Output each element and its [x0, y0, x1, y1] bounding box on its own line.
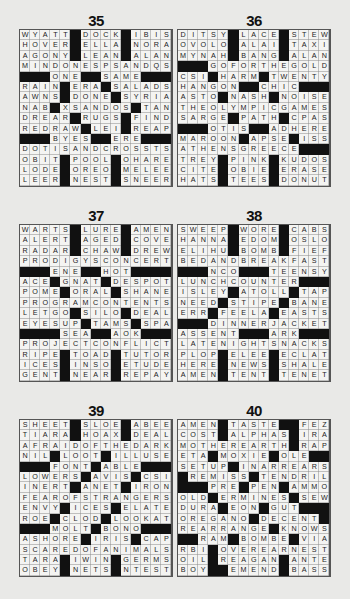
black-square	[269, 308, 279, 318]
letter-cell: L	[121, 451, 131, 461]
letter-cell: E	[161, 420, 171, 430]
letter-cell: A	[299, 256, 309, 266]
letter-cell: S	[319, 103, 329, 113]
letter-cell: P	[20, 256, 30, 266]
letter-cell: O	[299, 61, 309, 71]
letter-cell: I	[239, 462, 249, 472]
black-square	[111, 92, 121, 102]
letter-cell: P	[101, 61, 111, 71]
letter-cell: N	[111, 545, 121, 555]
letter-cell: H	[289, 124, 299, 134]
letter-cell: F	[30, 441, 40, 451]
black-square	[91, 524, 101, 534]
letter-cell: E	[40, 482, 50, 492]
black-square	[60, 92, 70, 102]
black-square	[269, 92, 279, 102]
letter-cell: R	[20, 82, 30, 92]
letter-cell: O	[228, 267, 238, 277]
letter-cell: R	[198, 360, 208, 370]
letter-cell: O	[178, 40, 188, 50]
letter-cell: R	[228, 493, 238, 503]
letter-cell: T	[151, 298, 161, 308]
letter-cell: T	[289, 503, 299, 513]
black-square	[81, 534, 91, 544]
letter-cell: E	[188, 256, 198, 266]
black-square	[249, 514, 259, 524]
letter-cell: T	[50, 30, 60, 40]
letter-cell: L	[131, 339, 141, 349]
black-square	[208, 451, 218, 461]
letter-cell: S	[81, 308, 91, 318]
letter-cell: E	[188, 360, 198, 370]
letter-cell: S	[111, 113, 121, 123]
letter-cell: F	[299, 420, 309, 430]
letter-cell: E	[269, 144, 279, 154]
letter-cell: U	[131, 350, 141, 360]
letter-cell: S	[60, 329, 70, 339]
letter-cell: E	[20, 319, 30, 329]
letter-cell: D	[249, 235, 259, 245]
letter-cell: M	[188, 370, 198, 380]
letter-cell: O	[81, 441, 91, 451]
letter-cell: R	[151, 40, 161, 50]
letter-cell: A	[208, 503, 218, 513]
black-square	[30, 72, 40, 82]
black-square	[218, 165, 228, 175]
letter-cell: A	[91, 472, 101, 482]
letter-cell: H	[208, 441, 218, 451]
letter-cell: E	[30, 370, 40, 380]
letter-cell: C	[289, 82, 299, 92]
letter-cell: O	[259, 287, 269, 297]
black-square	[319, 329, 329, 339]
letter-cell: O	[208, 103, 218, 113]
letter-cell: A	[299, 40, 309, 50]
letter-cell: C	[289, 350, 299, 360]
letter-cell: N	[208, 370, 218, 380]
letter-cell: I	[299, 246, 309, 256]
letter-cell: E	[178, 451, 188, 461]
black-square	[60, 503, 70, 513]
letter-cell: T	[60, 235, 70, 245]
letter-cell: O	[151, 350, 161, 360]
black-square	[91, 329, 101, 339]
letter-cell: O	[228, 451, 238, 461]
letter-cell: F	[50, 462, 60, 472]
letter-cell: D	[178, 30, 188, 40]
letter-cell: D	[70, 92, 80, 102]
letter-cell: O	[178, 555, 188, 565]
letter-cell: A	[111, 40, 121, 50]
letter-cell: E	[198, 370, 208, 380]
letter-cell: N	[70, 370, 80, 380]
black-square	[121, 420, 131, 430]
letter-cell: P	[218, 462, 228, 472]
letter-cell: S	[91, 61, 101, 71]
letter-cell: R	[141, 482, 151, 492]
letter-cell: L	[20, 165, 30, 175]
letter-cell: B	[40, 103, 50, 113]
letter-cell: E	[81, 175, 91, 185]
letter-cell: E	[50, 287, 60, 297]
letter-cell: S	[208, 175, 218, 185]
letter-cell: D	[40, 124, 50, 134]
letter-cell: S	[121, 472, 131, 482]
letter-cell: R	[121, 370, 131, 380]
letter-cell: S	[20, 545, 30, 555]
letter-cell: A	[81, 277, 91, 287]
letter-cell: S	[101, 565, 111, 575]
letter-cell: N	[279, 92, 289, 102]
letter-cell: S	[141, 319, 151, 329]
letter-cell: E	[269, 30, 279, 40]
letter-cell: A	[178, 144, 188, 154]
letter-cell: L	[269, 287, 279, 297]
letter-cell: N	[198, 235, 208, 245]
letter-cell: S	[279, 493, 289, 503]
letter-cell: E	[81, 565, 91, 575]
black-square	[239, 134, 249, 144]
letter-cell: E	[299, 545, 309, 555]
letter-cell: A	[101, 462, 111, 472]
black-square	[249, 82, 259, 92]
letter-cell: E	[131, 72, 141, 82]
letter-cell: C	[141, 472, 151, 482]
letter-cell: R	[101, 534, 111, 544]
letter-cell: U	[91, 225, 101, 235]
